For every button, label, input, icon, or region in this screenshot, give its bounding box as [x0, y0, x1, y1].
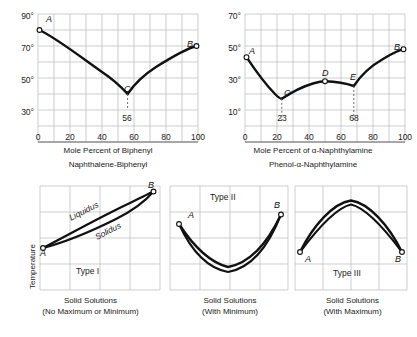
point-label-A-chart1: A	[46, 14, 52, 24]
x-tick-label: 0	[237, 132, 253, 142]
type-label-type2: Type II	[210, 192, 236, 202]
point-label-C-chart1: C	[124, 84, 131, 94]
chart2-title: Phenol-α-Naphthylamine	[217, 160, 409, 169]
y-tick-label: 70°	[6, 43, 34, 53]
point-label-E-chart2: E	[350, 72, 356, 82]
caption-line1-type2: Solid Solutions	[170, 296, 290, 306]
x-tick-label: 100	[395, 132, 415, 142]
caption-line2-type2: (With Minimum)	[170, 307, 290, 317]
figure-phase-diagrams: { "chart_data": [ { "id": "naphthalene-b…	[0, 0, 417, 337]
x-tick-label: 60	[333, 132, 349, 142]
plot-area-chart1	[38, 14, 206, 146]
y-tick-label: 70°	[213, 11, 241, 21]
type-label-type3: Type III	[333, 268, 361, 278]
y-tick-label: 90°	[6, 11, 34, 21]
y-tick-label: 30°	[6, 107, 34, 117]
eutectic-composition-2-chart2: 68	[344, 113, 364, 123]
point-label-B-type3: B	[395, 254, 401, 264]
type-label-type1: Type I	[76, 266, 99, 276]
y-tick-label: 10°	[213, 107, 241, 117]
chart-type-III: A B Type III Solid Solutions (With Maxim…	[295, 186, 415, 337]
point-label-C-chart2: C	[284, 88, 291, 98]
x-axis-title-chart2: Mole Percent of α-Naphthylamine	[217, 146, 409, 155]
chart-type-I: Temperature A B Liquidus Solidus Type I …	[18, 186, 163, 337]
point-label-A-type3: A	[305, 254, 311, 264]
point-label-B-chart1: B	[187, 39, 193, 49]
point-label-A-type1: A	[40, 248, 46, 258]
caption-line1-type1: Solid Solutions	[18, 296, 163, 306]
x-tick-label: 100	[188, 132, 208, 142]
y-axis-title-type1: Temperature	[28, 244, 37, 289]
point-label-B-type2: B	[274, 200, 280, 210]
point-label-D-chart2: D	[322, 68, 329, 78]
x-tick-label: 40	[94, 132, 110, 142]
x-tick-label: 20	[62, 132, 78, 142]
point-label-B-type1: B	[148, 180, 154, 190]
point-label-A-type2: A	[188, 210, 194, 220]
y-tick-label: 50°	[6, 75, 34, 85]
eutectic-composition-chart1: 56	[117, 113, 137, 123]
x-tick-label: 80	[365, 132, 381, 142]
x-tick-label: 80	[158, 132, 174, 142]
point-label-B-chart2: B	[394, 42, 400, 52]
caption-line1-type3: Solid Solutions	[295, 296, 410, 306]
x-tick-label: 20	[269, 132, 285, 142]
y-tick-label: 30°	[213, 75, 241, 85]
plot-area-chart2	[245, 14, 413, 146]
x-tick-label: 0	[30, 132, 46, 142]
caption-line2-type1: (No Maximum or Minimum)	[18, 307, 163, 317]
y-tick-label: 50°	[213, 43, 241, 53]
chart-type-II: A B Type II Solid Solutions (With Minimu…	[170, 186, 290, 337]
x-tick-label: 60	[126, 132, 142, 142]
chart1-title: Naphthalene-Biphenyl	[18, 160, 198, 169]
chart-phenol-alpha-naphthylamine: 70° 50° 30° 10°	[209, 0, 417, 185]
caption-line2-type3: (With Maximum)	[295, 307, 410, 317]
x-tick-label: 40	[301, 132, 317, 142]
chart-naphthalene-biphenyl: 90° 70° 50° 30°	[0, 0, 205, 185]
eutectic-composition-1-chart2: 23	[272, 113, 292, 123]
x-axis-title-chart1: Mole Percent of Biphenyl	[18, 146, 198, 155]
point-label-A-chart2: A	[249, 46, 255, 56]
